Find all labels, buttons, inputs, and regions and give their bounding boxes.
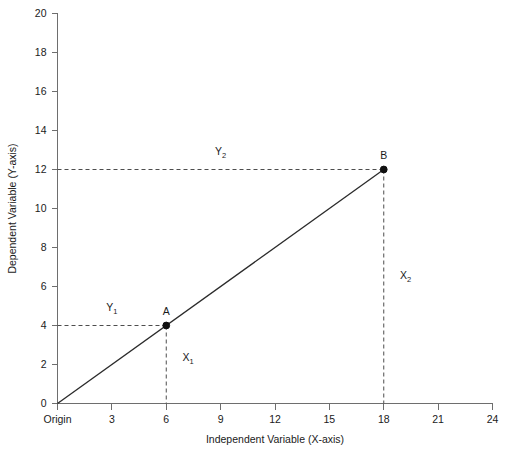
annotation-base: X	[182, 351, 189, 363]
y-tick-label: 2	[41, 358, 47, 370]
y-tick-label: 4	[41, 319, 47, 331]
y-tick-label: 10	[35, 202, 47, 214]
annotation-subscript: 1	[189, 357, 193, 366]
x-tick-label: 6	[163, 413, 169, 425]
y-tick-label: 12	[35, 163, 47, 175]
point-label-A: A	[163, 305, 170, 317]
annotation-subscript: 2	[407, 275, 411, 284]
y-tick-label: 0	[41, 397, 47, 409]
y-tick-label: 20	[35, 7, 47, 19]
axes	[58, 14, 493, 404]
y-tick-label: 16	[35, 85, 47, 97]
y-axis-ticks: 02468101214161820	[35, 7, 58, 409]
x-tick-label: 12	[269, 413, 281, 425]
data-point-B	[380, 166, 387, 173]
annotation-X2: X2	[400, 269, 411, 284]
x-tick-label: 3	[109, 413, 115, 425]
y-tick-label: 18	[35, 46, 47, 58]
x-tick-label: 18	[378, 413, 390, 425]
series-line	[58, 170, 384, 404]
data-point-markers: AB	[163, 149, 388, 329]
axis-lines	[58, 14, 493, 404]
chart-container: Origin3691215182124 02468101214161820 AB…	[0, 0, 520, 453]
point-label-B: B	[380, 149, 387, 161]
x-tick-label: 9	[218, 413, 224, 425]
y-tick-label: 8	[41, 241, 47, 253]
data-series	[58, 170, 384, 404]
y-axis-title: Dependent Variable (Y-axis)	[6, 143, 18, 273]
y-tick-label: 6	[41, 280, 47, 292]
x-tick-label: Origin	[43, 413, 71, 425]
annotation-base: Y	[106, 301, 113, 313]
annotation-X1: X1	[182, 351, 193, 366]
annotation-subscript: 1	[113, 307, 117, 316]
axis-titles: Independent Variable (X-axis)Dependent V…	[6, 143, 344, 444]
segment-annotations: Y1Y2X1X2	[106, 145, 411, 366]
annotation-Y1: Y1	[106, 301, 117, 316]
x-axis-title: Independent Variable (X-axis)	[206, 433, 344, 445]
x-tick-label: 15	[324, 413, 336, 425]
annotation-subscript: 2	[222, 151, 226, 160]
annotation-Y2: Y2	[215, 145, 226, 160]
line-chart: Origin3691215182124 02468101214161820 AB…	[0, 0, 520, 453]
data-point-A	[163, 322, 170, 329]
y-tick-label: 14	[35, 124, 47, 136]
annotation-base: Y	[215, 145, 222, 157]
x-tick-label: 21	[432, 413, 444, 425]
annotation-base: X	[400, 269, 407, 281]
x-tick-label: 24	[487, 413, 499, 425]
x-axis-ticks: Origin3691215182124	[43, 404, 498, 425]
